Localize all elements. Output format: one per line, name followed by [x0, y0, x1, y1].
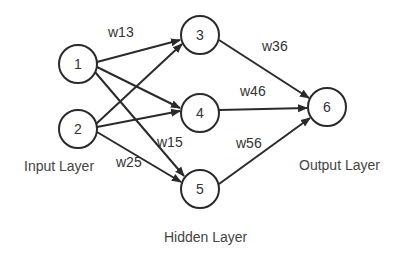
- node-6-label: 6: [323, 99, 331, 115]
- node-1: 1: [59, 45, 97, 83]
- weight-label-w25: w25: [115, 154, 142, 170]
- weight-label-w56: w56: [235, 135, 262, 151]
- node-3-label: 3: [196, 27, 204, 43]
- node-5-label: 5: [196, 181, 204, 197]
- input-layer-label: Input Layer: [24, 158, 94, 174]
- node-4-label: 4: [196, 105, 204, 121]
- edge-2-3: [96, 44, 182, 124]
- edge-5-6: [219, 118, 310, 184]
- output-layer-label: Output Layer: [299, 157, 380, 173]
- node-4: 4: [181, 94, 219, 132]
- neural-network-diagram: 1 2 3 4 5 6 w13 w15 w25 w36 w46 w56 Inpu…: [0, 0, 413, 257]
- node-3: 3: [181, 16, 219, 54]
- node-1-label: 1: [74, 56, 82, 72]
- weight-label-w46: w46: [239, 83, 266, 99]
- weight-label-w15: w15: [156, 134, 183, 150]
- weight-label-w36: w36: [261, 38, 288, 54]
- edge-2-4: [97, 111, 180, 127]
- edge-4-6: [219, 108, 307, 110]
- node-2-label: 2: [74, 121, 82, 137]
- node-5: 5: [181, 170, 219, 208]
- hidden-layer-label: Hidden Layer: [164, 229, 248, 245]
- node-2: 2: [59, 110, 97, 148]
- node-6: 6: [308, 88, 346, 126]
- weight-label-w13: w13: [107, 24, 134, 40]
